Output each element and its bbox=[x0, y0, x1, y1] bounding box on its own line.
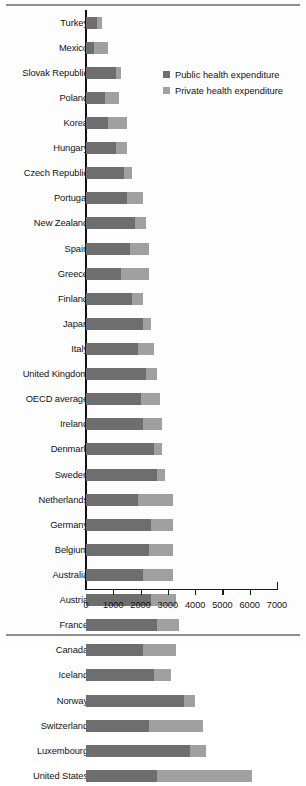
bar-segment-public bbox=[86, 443, 154, 455]
bar-row: Spain bbox=[0, 236, 306, 261]
stacked-bar bbox=[86, 268, 149, 280]
bar-segment-public bbox=[86, 217, 135, 229]
bar-row: United States bbox=[0, 763, 306, 786]
bar-row: Hungary bbox=[0, 136, 306, 161]
stacked-bar bbox=[86, 519, 173, 531]
x-tick-label: 2000 bbox=[130, 600, 150, 610]
stacked-bar bbox=[86, 469, 165, 481]
bar-segment-public bbox=[86, 318, 143, 330]
bar-segment-private bbox=[94, 42, 108, 54]
x-tick-label: 7000 bbox=[267, 600, 287, 610]
bar-segment-public bbox=[86, 393, 141, 405]
bar-row: Netherlands bbox=[0, 487, 306, 512]
bar-segment-public bbox=[86, 720, 149, 732]
stacked-bar bbox=[86, 393, 160, 405]
bar-row: Korea bbox=[0, 110, 306, 135]
bar-row: Greece bbox=[0, 261, 306, 286]
bar-segment-private bbox=[149, 720, 204, 732]
stacked-bar bbox=[86, 443, 162, 455]
bar-segment-private bbox=[146, 368, 157, 380]
x-tick-mark bbox=[277, 582, 278, 590]
bar-row: Switzerland bbox=[0, 713, 306, 738]
category-label: Ireland bbox=[60, 419, 88, 429]
bar-segment-public bbox=[86, 669, 154, 681]
bar-segment-public bbox=[86, 293, 132, 305]
bar-segment-private bbox=[157, 469, 165, 481]
x-tick-label: 4000 bbox=[185, 600, 205, 610]
bar-segment-private bbox=[154, 443, 162, 455]
bar-row: New Zealand bbox=[0, 211, 306, 236]
chart-legend: Public health expenditure Private health… bbox=[163, 68, 283, 100]
bar-segment-private bbox=[135, 217, 146, 229]
x-tick-label: 6000 bbox=[239, 600, 259, 610]
bar-row: United Kingdom bbox=[0, 362, 306, 387]
bar-segment-private bbox=[138, 494, 173, 506]
category-label: Hungary bbox=[53, 143, 88, 153]
category-label: Greece bbox=[58, 269, 88, 279]
legend-item-private: Private health expenditure bbox=[163, 84, 283, 97]
bar-segment-public bbox=[86, 695, 184, 707]
category-label: Poland bbox=[59, 93, 88, 103]
category-label: Slovak Republic bbox=[22, 68, 88, 78]
bar-row: OECD average bbox=[0, 387, 306, 412]
category-label: Japan bbox=[63, 319, 88, 329]
bar-row: Ireland bbox=[0, 412, 306, 437]
stacked-bar bbox=[86, 42, 108, 54]
bar-segment-private bbox=[116, 142, 127, 154]
bar-segment-private bbox=[108, 117, 127, 129]
bar-row: Japan bbox=[0, 311, 306, 336]
category-label: Australia bbox=[52, 570, 88, 580]
bar-segment-public bbox=[86, 42, 94, 54]
bar-segment-public bbox=[86, 368, 146, 380]
bar-segment-public bbox=[86, 469, 157, 481]
category-label: Mexico bbox=[59, 43, 88, 53]
stacked-bar bbox=[86, 569, 173, 581]
bar-segment-public bbox=[86, 92, 105, 104]
bar-segment-private bbox=[116, 67, 121, 79]
bar-segment-private bbox=[124, 167, 132, 179]
stacked-bar bbox=[86, 192, 143, 204]
category-label: United States bbox=[33, 771, 88, 781]
category-label: Netherlands bbox=[39, 495, 88, 505]
bar-segment-private bbox=[132, 293, 143, 305]
bar-segment-public bbox=[86, 644, 143, 656]
x-tick-mark bbox=[222, 590, 223, 595]
category-label: Belgium bbox=[55, 545, 88, 555]
bar-segment-private bbox=[105, 92, 119, 104]
bar-segment-public bbox=[86, 494, 138, 506]
stacked-bar bbox=[86, 318, 151, 330]
bar-segment-public bbox=[86, 17, 97, 29]
x-tick-label: 3000 bbox=[158, 600, 178, 610]
bar-row: Belgium bbox=[0, 537, 306, 562]
bar-row: Sweden bbox=[0, 462, 306, 487]
stacked-bar bbox=[86, 619, 179, 631]
category-label: Portugal bbox=[54, 193, 88, 203]
bar-segment-private bbox=[97, 17, 102, 29]
bar-row: Luxembourg bbox=[0, 738, 306, 763]
category-label: Czech Republic bbox=[24, 168, 88, 178]
legend-label-public: Public health expenditure bbox=[175, 70, 279, 80]
bar-segment-public bbox=[86, 745, 190, 757]
bar-segment-private bbox=[149, 544, 174, 556]
category-label: Canada bbox=[56, 645, 88, 655]
stacked-bar bbox=[86, 243, 149, 255]
x-axis-line bbox=[86, 589, 277, 590]
category-label: Spain bbox=[65, 244, 88, 254]
category-label: Luxembourg bbox=[37, 746, 88, 756]
bar-segment-public bbox=[86, 519, 151, 531]
bar-row: Portugal bbox=[0, 186, 306, 211]
bar-segment-private bbox=[141, 393, 160, 405]
stacked-bar bbox=[86, 745, 206, 757]
top-divider-rule bbox=[6, 4, 300, 6]
stacked-bar bbox=[86, 343, 154, 355]
category-label: France bbox=[59, 620, 88, 630]
bar-row: Italy bbox=[0, 336, 306, 361]
legend-label-private: Private health expenditure bbox=[175, 86, 283, 96]
stacked-bar bbox=[86, 494, 173, 506]
category-label: Korea bbox=[63, 118, 88, 128]
stacked-bar bbox=[86, 167, 132, 179]
category-label: United Kingdom bbox=[23, 369, 88, 379]
category-label: Iceland bbox=[58, 670, 88, 680]
category-label: Turkey bbox=[60, 18, 88, 28]
